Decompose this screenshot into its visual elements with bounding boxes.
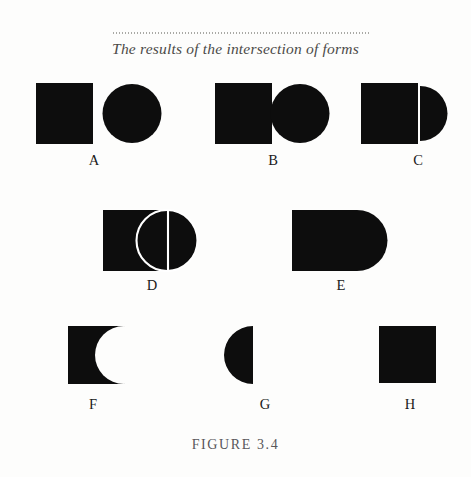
shape-label-a: A xyxy=(74,152,114,169)
shape-label-f: F xyxy=(73,396,113,413)
square-glyph xyxy=(379,326,436,383)
shape-a xyxy=(33,80,165,148)
shape-c xyxy=(358,80,450,148)
shape-b xyxy=(212,80,334,148)
figure-caption: FIGURE 3.4 xyxy=(0,437,471,453)
shape-a-graphic xyxy=(33,80,165,148)
shape-b-graphic xyxy=(212,80,334,148)
shape-e xyxy=(289,207,393,275)
decorative-dotted-rule xyxy=(112,32,370,34)
shape-e-graphic xyxy=(289,207,393,275)
semicircle-glyph xyxy=(420,86,448,141)
shape-c-graphic xyxy=(358,80,450,148)
shape-label-e: E xyxy=(321,277,361,294)
square-glyph xyxy=(215,83,272,144)
shape-label-c: C xyxy=(398,152,438,169)
square-glyph xyxy=(36,83,93,144)
shape-f xyxy=(65,323,135,387)
shape-label-g: G xyxy=(245,396,285,413)
circle-glyph xyxy=(271,84,330,143)
shape-label-b: B xyxy=(253,152,293,169)
shape-g-graphic xyxy=(221,323,271,387)
union-glyph xyxy=(292,210,387,271)
shape-h-graphic xyxy=(377,324,439,386)
shape-h xyxy=(377,324,439,386)
figure-title: The results of the intersection of forms xyxy=(0,40,471,58)
shape-label-h: H xyxy=(390,396,430,413)
figure-page: The results of the intersection of forms… xyxy=(0,0,471,477)
shape-d-graphic xyxy=(100,207,204,275)
shape-label-d: D xyxy=(132,277,172,294)
shape-g xyxy=(221,323,271,387)
shape-f-graphic xyxy=(65,323,135,387)
circle-glyph xyxy=(103,84,162,143)
shape-d xyxy=(100,207,204,275)
subtraction-glyph xyxy=(65,323,135,387)
square-glyph xyxy=(361,83,418,144)
intersection-glyph xyxy=(224,326,253,384)
